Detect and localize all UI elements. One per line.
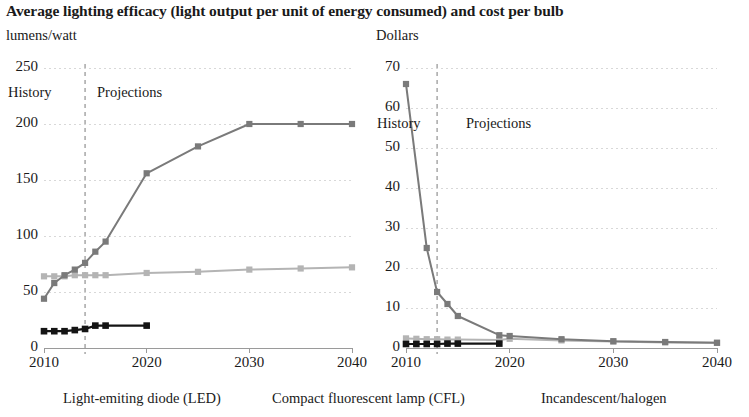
right-ytick-60: 60 (364, 98, 400, 115)
left-ytick-250: 250 (2, 58, 38, 75)
right-xtick-2020: 2020 (480, 354, 540, 371)
right-ytick-50: 50 (364, 138, 400, 155)
left-xtick-2030: 2030 (219, 354, 279, 371)
left-ytick-0: 0 (2, 338, 38, 355)
left-ytick-150: 150 (2, 170, 38, 187)
right-ytick-30: 30 (364, 218, 400, 235)
left-ytick-100: 100 (2, 226, 38, 243)
legend-item-incandescent: Incandescent/halogen (541, 390, 667, 407)
right-xtick-2030: 2030 (583, 354, 643, 371)
left-ytick-50: 50 (2, 282, 38, 299)
left-projections-label: Projections (97, 84, 162, 101)
right-axis-unit-label: Dollars (376, 27, 419, 44)
left-ytick-200: 200 (2, 114, 38, 131)
right-xtick-2040: 2040 (687, 354, 747, 371)
figure-root: Average lighting efficacy (light output … (0, 0, 749, 417)
left-axis-unit-label: lumens/watt (6, 27, 77, 44)
right-history-label: History (377, 115, 421, 132)
right-ytick-10: 10 (364, 298, 400, 315)
left-xtick-2040: 2040 (322, 354, 382, 371)
right-ytick-40: 40 (364, 178, 400, 195)
left-xtick-2020: 2020 (117, 354, 177, 371)
right-ytick-20: 20 (364, 258, 400, 275)
left-xtick-2010: 2010 (14, 354, 74, 371)
right-ytick-0: 0 (364, 338, 400, 355)
legend-item-led: Light-emiting diode (LED) (63, 390, 221, 407)
legend: Light-emiting diode (LED) Compact fluore… (0, 390, 749, 412)
right-xtick-2010: 2010 (376, 354, 436, 371)
right-ytick-70: 70 (364, 58, 400, 75)
right-projections-label: Projections (466, 115, 531, 132)
left-history-label: History (8, 84, 52, 101)
legend-item-cfl: Compact fluorescent lamp (CFL) (272, 390, 465, 407)
